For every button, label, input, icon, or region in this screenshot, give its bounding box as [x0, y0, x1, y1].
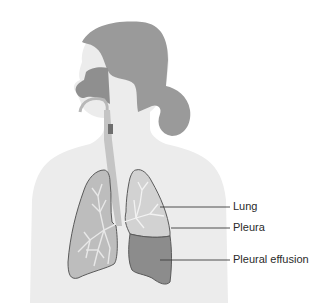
label-pleural-effusion: Pleural effusion — [233, 254, 309, 265]
label-lung: Lung — [233, 201, 257, 212]
label-pleura: Pleura — [233, 222, 265, 233]
pleural-effusion-diagram: Lung Pleura Pleural effusion — [0, 0, 321, 303]
